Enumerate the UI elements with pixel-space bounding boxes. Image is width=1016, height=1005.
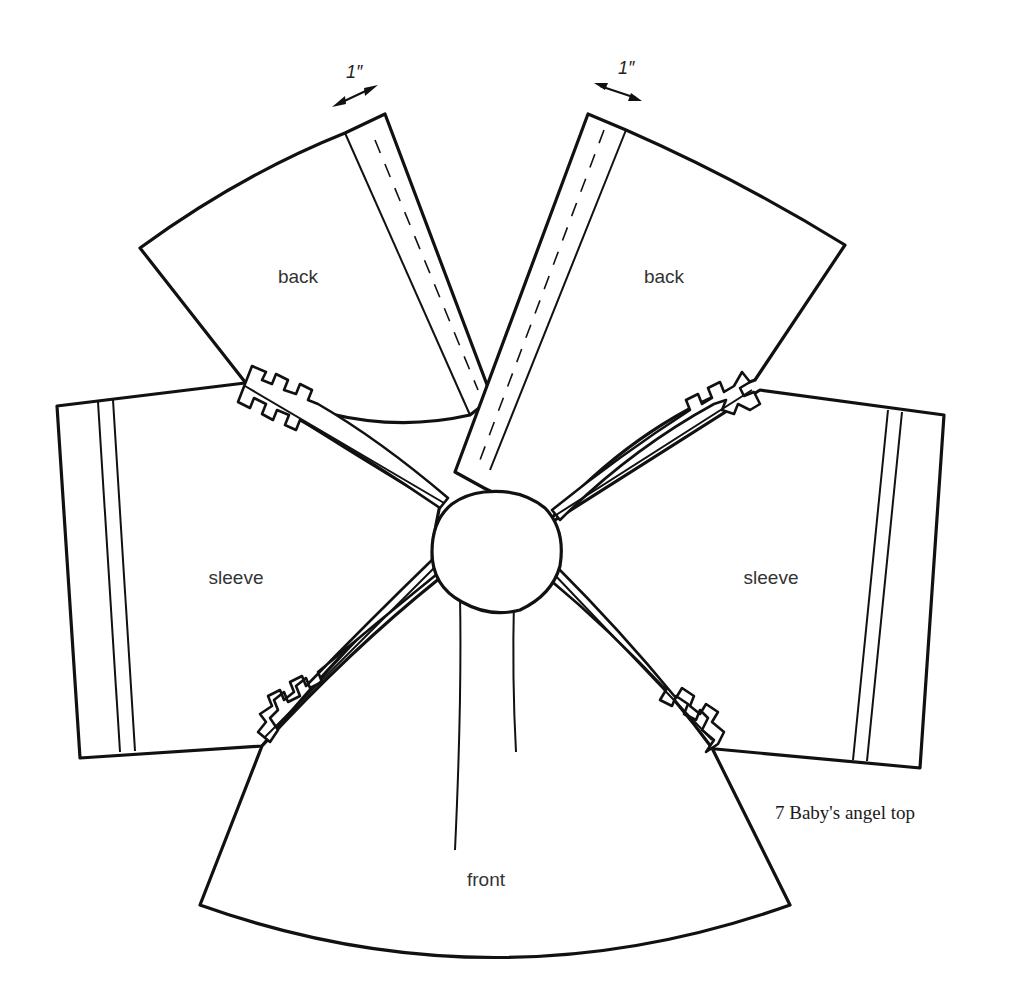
neck-opening [432,491,561,612]
arrowhead-right-icon [364,85,378,96]
sleeve-left-label: sleeve [209,567,264,588]
band-width-label-left: 1″ [346,62,363,82]
back-right-label: back [644,266,685,287]
angel-top-pattern-diagram: sleeve sleeve front back back [0,0,1016,1005]
back-left-label: back [278,266,319,287]
sleeve-right-label: sleeve [744,567,799,588]
back-left-piece: back [140,114,492,423]
band-width-label-right: 1″ [618,58,635,78]
arrowhead-left-icon [332,96,346,107]
front-label: front [467,869,506,890]
band-width-measure-right: 1″ [594,58,642,101]
band-width-measure-left: 1″ [332,62,378,107]
arrowhead-right-icon [628,93,642,101]
figure-caption: 7 Baby's angel top [775,802,915,824]
